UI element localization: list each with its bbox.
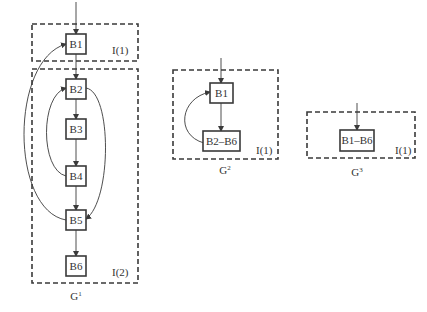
region-label: I(1) (395, 144, 412, 157)
svg-text:B2–B6: B2–B6 (206, 135, 238, 147)
edge-b5-b1 (24, 44, 66, 220)
node-b1: B1 (210, 83, 233, 103)
svg-text:B4: B4 (70, 170, 83, 182)
svg-text:B3: B3 (70, 123, 83, 135)
svg-text:B2: B2 (70, 83, 83, 95)
region-label: I(2) (112, 266, 129, 279)
node-b3: B3 (66, 119, 86, 139)
node-b1: B1 (66, 34, 86, 54)
edge-b4-b2 (47, 88, 67, 176)
graph-caption-g2: G2 (219, 164, 231, 176)
node-b1-b6: B1–B6 (340, 130, 374, 151)
svg-text:B1–B6: B1–B6 (341, 134, 373, 146)
node-b6: B6 (66, 256, 86, 276)
graph-caption-g1: G1 (70, 290, 82, 302)
node-b5: B5 (66, 210, 86, 230)
edge-b2-b5 (86, 88, 106, 219)
svg-text:B1: B1 (70, 38, 83, 50)
region-label: I(1) (256, 144, 273, 157)
node-b2-b6: B2–B6 (203, 131, 240, 151)
svg-text:B1: B1 (215, 87, 228, 99)
graph-g2: I(1) B1 B2–B6 G2 (173, 58, 278, 176)
graph-caption-g3: G3 (351, 166, 363, 178)
graph-g3: I(1) B1–B6 G3 (307, 103, 415, 178)
svg-text:B6: B6 (70, 260, 83, 272)
region-label: I(1) (112, 44, 129, 57)
svg-text:B5: B5 (70, 214, 83, 226)
graph-g1: I(1) I(2) B1 B2 B3 B4 B5 (24, 2, 138, 302)
node-b4: B4 (66, 166, 86, 186)
interval-reduction-diagram: I(1) I(2) B1 B2 B3 B4 B5 (0, 0, 427, 312)
node-b2: B2 (66, 79, 86, 99)
